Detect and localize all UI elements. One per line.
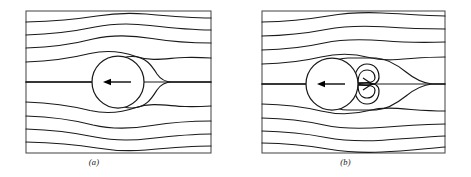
panel-b-caption: (b) xyxy=(228,157,463,167)
panel-b: (b) xyxy=(236,0,471,177)
panel-a-diagram xyxy=(0,0,236,177)
panel-b-diagram xyxy=(236,0,471,177)
figure-container: (a) xyxy=(0,0,471,177)
panel-a: (a) xyxy=(0,0,236,177)
panel-a-caption: (a) xyxy=(0,157,212,167)
